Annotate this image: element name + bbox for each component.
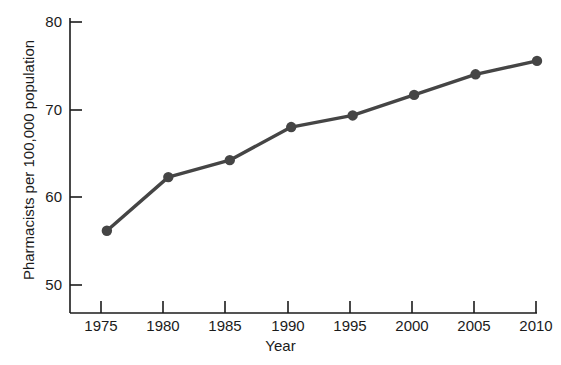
x-tick-label-1990: 1990 [258,317,318,334]
data-point-2005 [470,69,480,79]
x-axis-label: Year [0,337,561,354]
x-tick-label-1980: 1980 [133,317,193,334]
data-line-series-1 [107,61,537,231]
axis-lines [70,18,537,313]
x-tick-label-1975: 1975 [71,317,131,334]
data-point-2000 [409,90,419,100]
x-tick-label-2000: 2000 [382,317,442,334]
data-point-1975 [102,226,112,236]
x-tick-label-2010: 2010 [506,317,561,334]
y-axis-label: Pharmacists per 100,000 population [20,20,37,300]
data-point-1985 [225,155,235,165]
x-tick-label-1995: 1995 [320,317,380,334]
data-point-1990 [286,122,296,132]
chart-figure: 80 70 60 50 1975 1980 1985 1990 1995 200… [0,0,561,365]
x-axis-ticks [101,301,536,313]
data-point-1980 [163,172,173,182]
data-point-2010 [532,56,542,66]
y-axis-ticks [70,22,82,285]
data-point-markers [102,56,543,236]
line-chart-plot [0,0,561,365]
x-tick-label-1985: 1985 [195,317,255,334]
data-point-1995 [347,110,357,120]
x-tick-label-2005: 2005 [444,317,504,334]
y-axis-label-container: Pharmacists per 100,000 population [20,20,40,300]
